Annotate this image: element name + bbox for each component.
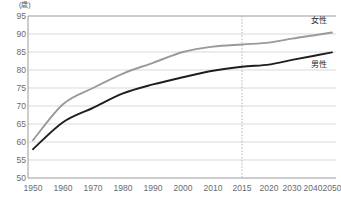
series-line-male xyxy=(33,52,332,149)
series-label-male: 男性 xyxy=(311,61,327,69)
series-label-female: 女性 xyxy=(311,17,327,25)
